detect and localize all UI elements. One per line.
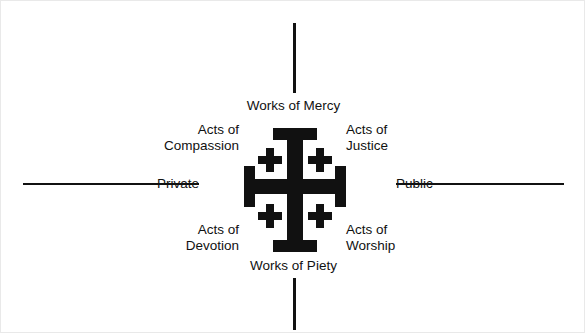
axis-label-public: Public — [396, 176, 496, 191]
quadrant-label-line-2: Compassion — [119, 138, 239, 154]
quadrant-label-line-2: Devotion — [119, 238, 239, 254]
quadrant-label-acts-of-devotion: Acts of Devotion — [119, 222, 239, 254]
axis-label-works-of-piety: Works of Piety — [1, 258, 585, 273]
vertical-axis-line-bottom — [293, 278, 296, 330]
jerusalem-cross-svg — [240, 124, 350, 256]
axis-label-works-of-mercy: Works of Mercy — [1, 98, 585, 113]
quadrant-label-acts-of-compassion: Acts of Compassion — [119, 122, 239, 154]
vertical-axis-line-top — [293, 23, 296, 93]
quadrant-label-line-1: Acts of — [119, 222, 239, 238]
diagram-canvas: Works of Mercy Works of Piety Private Pu… — [0, 0, 585, 333]
quadrant-label-line-1: Acts of — [346, 122, 466, 138]
quadrant-label-line-1: Acts of — [346, 222, 466, 238]
quadrant-label-acts-of-worship: Acts of Worship — [346, 222, 466, 254]
jerusalem-cross-icon — [240, 124, 350, 256]
quadrant-label-acts-of-justice: Acts of Justice — [346, 122, 466, 154]
quadrant-label-line-2: Justice — [346, 138, 466, 154]
quadrant-label-line-2: Worship — [346, 238, 466, 254]
axis-label-private: Private — [99, 176, 199, 191]
quadrant-label-line-1: Acts of — [119, 122, 239, 138]
